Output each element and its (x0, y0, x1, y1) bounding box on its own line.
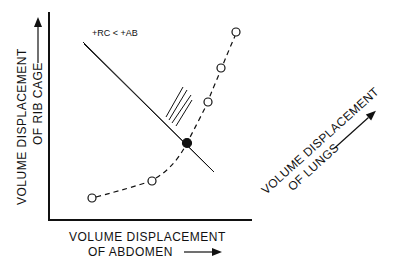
x-axis-label-line2: OF ABDOMEN (88, 245, 173, 259)
diag-axis-label-line1: VOLUME DISPLACEMENT (259, 84, 382, 197)
hatch-marks (166, 87, 192, 126)
open-circle-point (232, 28, 240, 36)
isovolume-line (83, 42, 214, 172)
data-points (88, 28, 240, 202)
respiratory-diagram: +RC < +AB VOLUME DISPLACEMENT OF RIB CAG… (0, 0, 395, 268)
open-circle-point (88, 194, 96, 202)
y-axis-label-line1: VOLUME DISPLACEMENT (15, 48, 29, 205)
filled-circle-point (183, 139, 192, 148)
dashed-curve (96, 36, 235, 197)
y-axis-label-line2: OF RIB CAGE (31, 62, 45, 145)
open-circle-point (217, 64, 225, 72)
open-circle-point (148, 177, 156, 185)
open-circle-point (204, 98, 212, 106)
x-axis-arrow-icon (184, 248, 222, 256)
y-axis-arrow-icon (34, 17, 42, 63)
x-axis-label-line1: VOLUME DISPLACEMENT (69, 230, 226, 244)
annotation-label: +RC < +AB (92, 28, 138, 38)
